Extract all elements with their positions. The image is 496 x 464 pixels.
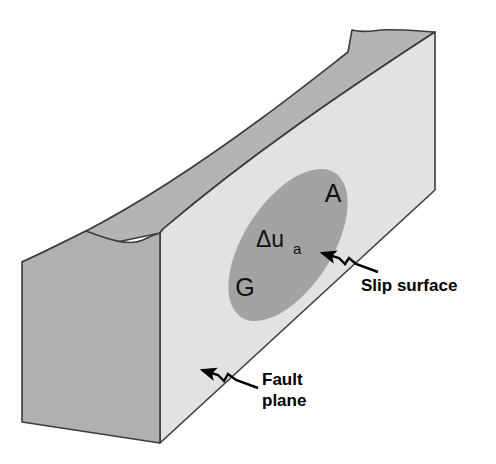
fault-plane-callout-line1: Fault [262, 370, 303, 389]
ground-label-G: G [235, 273, 254, 301]
fault-plane-callout-line2: plane [262, 391, 306, 410]
asperity-label-A: A [325, 179, 342, 207]
slip-displacement-symbol: Δu [256, 226, 284, 252]
slip-surface-callout-label: Slip surface [361, 276, 457, 295]
slip-displacement-subscript: a [293, 240, 302, 257]
left-end-face [22, 231, 160, 443]
figure-canvas: A G Δu a Slip surface Fault plane [0, 0, 496, 464]
block-diagram-svg: A G Δu a Slip surface Fault plane [0, 0, 496, 464]
